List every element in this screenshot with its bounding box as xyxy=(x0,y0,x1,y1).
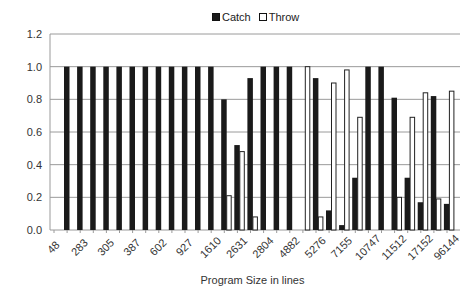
x-tick-label: 48 xyxy=(45,239,62,256)
catch-bar xyxy=(274,67,280,230)
y-tick-label: 0.0 xyxy=(27,224,42,236)
legend-item-catch: Catch xyxy=(212,11,251,23)
throw-bar xyxy=(253,217,258,230)
x-tick-label: 387 xyxy=(121,236,142,257)
throw-bar xyxy=(397,197,402,230)
throw-bar xyxy=(227,196,232,230)
throw-swatch-icon xyxy=(259,13,267,21)
catch-bar xyxy=(64,67,70,230)
catch-bar xyxy=(313,78,319,230)
catch-bar xyxy=(247,78,253,230)
y-tick-label: 0.6 xyxy=(27,126,42,138)
throw-bar xyxy=(332,83,337,230)
catch-bar xyxy=(261,67,267,230)
catch-bar xyxy=(221,99,227,230)
x-tick-label: 305 xyxy=(95,236,116,257)
catch-bar xyxy=(392,98,398,230)
throw-bar xyxy=(436,199,441,230)
throw-bar xyxy=(240,152,245,230)
catch-bar xyxy=(90,67,96,230)
x-tick-label: 11512 xyxy=(379,232,409,262)
catch-bar xyxy=(378,67,384,230)
y-tick-label: 1.0 xyxy=(27,61,42,73)
catch-bar xyxy=(326,210,332,230)
legend-label-catch: Catch xyxy=(222,11,251,23)
catch-bar xyxy=(143,67,149,230)
legend-label-throw: Throw xyxy=(269,11,300,23)
x-tick-label: 927 xyxy=(173,236,194,257)
legend-item-throw: Throw xyxy=(259,11,300,23)
throw-bar xyxy=(318,217,323,230)
x-axis-title: Program Size in lines xyxy=(0,274,475,286)
catch-bar xyxy=(418,202,424,230)
y-tick-label: 0.4 xyxy=(27,159,42,171)
catch-bar xyxy=(431,96,437,230)
catch-bar xyxy=(130,67,136,230)
throw-bar xyxy=(345,70,350,230)
x-tick-label: 17152 xyxy=(405,232,435,262)
throw-bar xyxy=(410,117,415,230)
catch-bar xyxy=(234,145,240,230)
throw-bar xyxy=(358,117,363,230)
x-tick-label: 602 xyxy=(147,236,168,257)
catch-bar xyxy=(116,67,122,230)
x-tick-label: 10747 xyxy=(353,232,383,262)
x-tick-label: 1610 xyxy=(197,234,223,260)
catch-bar xyxy=(156,67,162,230)
catch-bar xyxy=(195,67,201,230)
catch-bar xyxy=(103,67,109,230)
x-tick-label: 5276 xyxy=(302,234,328,260)
catch-bar xyxy=(365,67,371,230)
throw-bar xyxy=(449,91,454,230)
x-tick-label: 2631 xyxy=(224,234,250,260)
catch-bar xyxy=(352,178,358,230)
catch-bar xyxy=(77,67,83,230)
legend: Catch Throw xyxy=(212,11,303,23)
x-tick-label: 96144 xyxy=(431,232,461,262)
throw-bar xyxy=(423,93,428,230)
throw-bar xyxy=(305,67,310,230)
x-tick-label: 4882 xyxy=(276,234,302,260)
catch-bar xyxy=(208,67,214,230)
x-tick-label: 7155 xyxy=(328,234,354,260)
catch-bar xyxy=(444,204,450,230)
bar-chart: 0.00.20.40.60.81.01.24828330538760292716… xyxy=(0,0,475,302)
catch-bar xyxy=(182,67,188,230)
x-tick-label: 2804 xyxy=(250,234,276,260)
y-tick-label: 1.2 xyxy=(27,28,42,40)
y-tick-label: 0.8 xyxy=(27,93,42,105)
catch-bar xyxy=(339,225,345,230)
y-tick-label: 0.2 xyxy=(27,191,42,203)
catch-bar xyxy=(287,67,293,230)
catch-bar xyxy=(169,67,175,230)
x-tick-label: 283 xyxy=(69,236,90,257)
catch-swatch-icon xyxy=(212,13,220,21)
catch-bar xyxy=(405,178,411,230)
